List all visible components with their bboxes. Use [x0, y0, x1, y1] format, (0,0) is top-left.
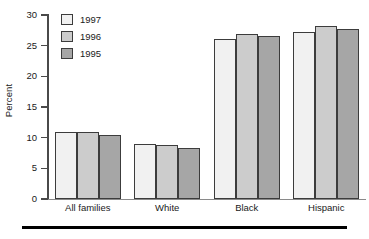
y-axis-tick-label: 30 [7, 10, 37, 20]
y-axis-tick [41, 137, 48, 138]
y-axis-tick-label: 15 [7, 102, 37, 112]
bar-black-1996 [236, 34, 258, 199]
x-axis-label-hispanic: Hispanic [276, 203, 369, 213]
y-axis-tick [41, 14, 48, 15]
legend-swatch-1995 [61, 48, 73, 59]
y-axis-tick [41, 45, 48, 46]
y-axis-tick-label: 20 [7, 71, 37, 81]
x-axis-line [47, 199, 366, 200]
y-axis-title-text: Percent [4, 83, 15, 116]
bar-white-1997 [134, 144, 156, 199]
bar-hispanic-1997 [293, 32, 315, 199]
bar-hispanic-1996 [315, 26, 337, 199]
bar-all-families-1995 [99, 135, 121, 199]
y-axis-tick-label: 5 [7, 163, 37, 173]
legend-swatch-1997 [61, 14, 73, 25]
bar-hispanic-1995 [337, 29, 359, 200]
legend-label-1997: 1997 [80, 15, 101, 25]
y-axis-tick-label: 25 [7, 41, 37, 51]
grouped-bar-chart: Percent 051015202530 All familiesWhiteBl… [0, 0, 369, 239]
chart-legend: 199719961995 [61, 11, 101, 62]
y-axis-tick-label: 0 [7, 194, 37, 204]
legend-swatch-1996 [61, 31, 73, 42]
bar-black-1997 [214, 39, 236, 199]
y-axis-tick [41, 76, 48, 77]
bar-white-1996 [156, 145, 178, 199]
bar-black-1995 [258, 36, 280, 199]
bar-white-1995 [178, 148, 200, 199]
bottom-rule [22, 226, 347, 229]
y-axis-tick [41, 106, 48, 107]
legend-item-1995: 1995 [61, 45, 101, 62]
y-axis-tick [41, 198, 48, 199]
bar-all-families-1997 [55, 132, 77, 199]
legend-label-1995: 1995 [80, 49, 101, 59]
bar-all-families-1996 [77, 132, 99, 199]
legend-item-1996: 1996 [61, 28, 101, 45]
y-axis-tick-label: 10 [7, 133, 37, 143]
legend-item-1997: 1997 [61, 11, 101, 28]
y-axis-tick [41, 168, 48, 169]
legend-label-1996: 1996 [80, 32, 101, 42]
